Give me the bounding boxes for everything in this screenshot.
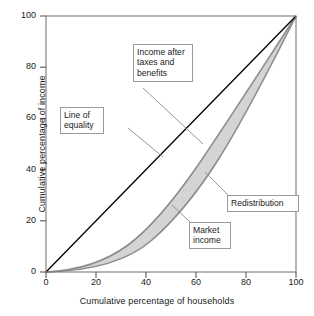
y-tick-label-60: 60: [6, 112, 36, 122]
y-tick-label-80: 80: [6, 61, 36, 71]
x-axis-title: Cumulative percentage of households: [0, 296, 314, 306]
y-tick-label-100: 100: [6, 10, 36, 20]
x-tick-label-40: 40: [131, 277, 161, 287]
leader-income-after: [143, 88, 203, 144]
y-tick-label-0: 0: [6, 266, 36, 276]
y-tick-label-20: 20: [6, 215, 36, 225]
annotation-line-of-equality: Line of equality: [60, 107, 104, 134]
x-tick-label-0: 0: [31, 277, 61, 287]
x-tick-label-20: 20: [81, 277, 111, 287]
leader-line-of-equality: [128, 128, 163, 157]
y-axis-title: Cumulative percentage of income: [37, 29, 47, 259]
y-tick-label-40: 40: [6, 164, 36, 174]
annotation-market-income: Market income: [189, 222, 231, 249]
x-tick-label-80: 80: [231, 277, 261, 287]
annotation-income-after-taxes: Income after taxes and benefits: [133, 44, 193, 82]
lorenz-curve-chart: 0 20 40 60 80 100 0 20 40 60 80 100 Cumu…: [0, 0, 314, 316]
leader-redistribution: [205, 172, 228, 195]
x-tick-label-60: 60: [181, 277, 211, 287]
annotation-redistribution: Redistribution: [227, 195, 299, 212]
x-tick-label-100: 100: [281, 277, 311, 287]
